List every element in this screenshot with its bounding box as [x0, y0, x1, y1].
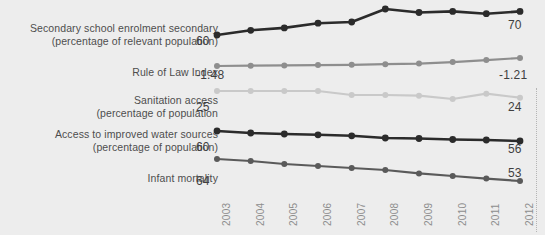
series-0	[214, 6, 524, 39]
data-point	[214, 88, 220, 94]
x-axis-tick-2011: 2011	[490, 203, 501, 226]
data-point	[382, 135, 389, 142]
x-axis-tick-2005: 2005	[288, 203, 299, 226]
x-axis-tick-2006: 2006	[322, 203, 333, 226]
data-point	[483, 10, 490, 17]
series-1	[214, 55, 523, 69]
data-point	[281, 131, 288, 138]
data-point	[382, 6, 389, 13]
data-point	[349, 62, 355, 68]
data-point	[281, 88, 287, 94]
data-point	[348, 19, 355, 26]
data-point	[315, 20, 322, 27]
data-point	[450, 59, 456, 65]
data-point	[247, 27, 254, 34]
data-point	[349, 92, 355, 98]
data-point	[416, 135, 423, 142]
data-point	[214, 63, 220, 69]
series-line	[217, 159, 520, 181]
series-3	[214, 128, 524, 145]
x-axis-tick-2003: 2003	[221, 203, 232, 226]
x-axis-tick-2007: 2007	[356, 203, 367, 226]
x-axis-tick-2012: 2012	[524, 203, 535, 226]
series-2	[214, 88, 523, 102]
data-point	[382, 61, 388, 67]
data-point	[214, 128, 221, 135]
data-point	[483, 137, 490, 144]
x-axis-tick-2004: 2004	[255, 203, 266, 226]
data-point	[248, 63, 254, 69]
data-point	[517, 178, 523, 184]
data-point	[348, 132, 355, 139]
data-point	[382, 92, 388, 98]
data-point	[247, 130, 254, 137]
data-point	[517, 55, 523, 61]
data-point	[248, 88, 254, 94]
data-point	[450, 173, 456, 179]
series-line	[217, 58, 520, 66]
x-axis-tick-2008: 2008	[389, 203, 400, 226]
data-point	[416, 93, 422, 99]
data-point	[449, 8, 456, 15]
series-line	[217, 131, 520, 141]
data-point	[416, 61, 422, 67]
data-point	[281, 161, 287, 167]
data-point	[315, 163, 321, 169]
data-point	[349, 165, 355, 171]
series-4	[214, 156, 523, 184]
data-point	[382, 167, 388, 173]
data-point	[214, 32, 221, 39]
data-point	[416, 170, 422, 176]
right-edge-dotted-rule	[536, 88, 537, 232]
data-point	[450, 96, 456, 102]
chart-canvas: Secondary school enrolment secondary (pe…	[0, 0, 545, 235]
data-point	[449, 136, 456, 143]
data-point	[517, 95, 523, 101]
data-point	[483, 91, 489, 97]
data-point	[517, 138, 524, 145]
series-line	[217, 91, 520, 99]
data-point	[315, 62, 321, 68]
data-point	[416, 9, 423, 16]
chart-plot-area	[0, 0, 545, 235]
data-point	[483, 176, 489, 182]
data-point	[248, 158, 254, 164]
data-point	[315, 88, 321, 94]
series-line	[217, 9, 520, 35]
data-point	[281, 62, 287, 68]
data-point	[214, 156, 220, 162]
x-axis-tick-2010: 2010	[457, 203, 468, 226]
data-point	[517, 8, 524, 15]
data-point	[483, 57, 489, 63]
data-point	[315, 131, 322, 138]
data-point	[281, 25, 288, 32]
x-axis-tick-2009: 2009	[423, 203, 434, 226]
